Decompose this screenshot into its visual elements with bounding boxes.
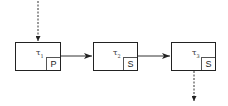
task-index: 1: [40, 53, 43, 59]
task-label-1: τ1: [36, 48, 44, 59]
task-box-1: τ1 P: [15, 42, 61, 71]
task-tag-2: S: [123, 57, 137, 70]
task-label-3: τ3: [192, 48, 200, 59]
task-index: 2: [117, 53, 120, 59]
task-label-2: τ2: [113, 48, 121, 59]
task-tag-3: S: [201, 57, 215, 70]
task-box-3: τ3 S: [171, 42, 216, 71]
task-tag-1: P: [46, 57, 60, 70]
task-index: 3: [196, 53, 199, 59]
task-box-2: τ2 S: [93, 42, 138, 71]
